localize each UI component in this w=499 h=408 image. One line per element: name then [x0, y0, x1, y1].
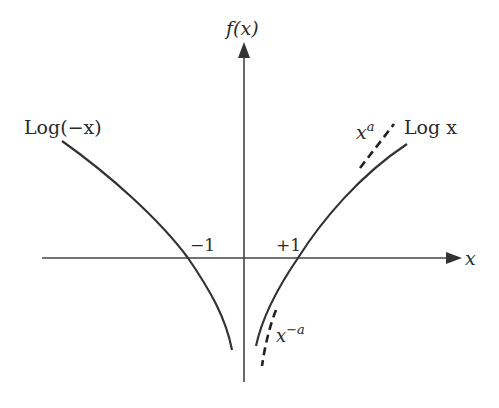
tick-label-pos-one: +1	[276, 235, 301, 255]
x-power-a-label: xa	[356, 119, 374, 143]
x-power-neg-a-label: x−a	[276, 322, 305, 346]
x-axis-label: x	[465, 247, 476, 269]
x-axis-arrow-icon	[446, 252, 462, 264]
y-axis-arrow-icon	[238, 42, 250, 58]
log-function-diagram: f(x) x −1 +1 Log(−x) Log x xa x−a	[0, 0, 499, 408]
tick-label-neg-one: −1	[190, 235, 215, 255]
y-axis-label: f(x)	[224, 17, 259, 39]
log-x-label: Log x	[404, 116, 457, 138]
log-neg-x-label: Log(−x)	[24, 116, 102, 138]
